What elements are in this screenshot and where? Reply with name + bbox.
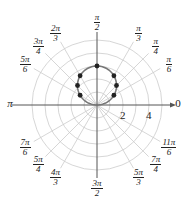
grid-spoke: [45, 53, 97, 105]
grid-spoke: [61, 105, 98, 168]
angle-label-numerator: 5π: [20, 55, 31, 65]
angle-label: 5π4: [30, 155, 46, 174]
angle-label-denominator: 4: [153, 47, 158, 56]
grid-spoke: [34, 69, 97, 106]
angle-label: 0: [173, 99, 183, 108]
angle-label: 11π6: [161, 138, 177, 157]
grid-spoke: [97, 69, 160, 106]
data-point: [78, 93, 83, 98]
data-point: [95, 64, 100, 69]
angle-label-denominator: 3: [53, 34, 58, 43]
radial-tick-label: 2: [120, 109, 126, 121]
grid-spoke: [45, 105, 97, 157]
angle-label: π: [5, 99, 15, 108]
angle-label: 7π4: [148, 155, 164, 174]
data-point: [75, 83, 80, 88]
grid-spoke: [97, 53, 149, 105]
angle-label-denominator: 3: [53, 178, 58, 187]
angle-label-denominator: 6: [23, 148, 28, 157]
data-point: [111, 93, 116, 98]
angle-label-denominator: 6: [23, 65, 28, 74]
angle-label: 5π6: [17, 55, 33, 74]
angle-label-denominator: 3: [136, 34, 141, 43]
angle-label-denominator: 4: [36, 47, 41, 56]
angle-label: π4: [148, 37, 164, 56]
angle-label: π3: [131, 24, 147, 43]
angle-label-denominator: 4: [36, 165, 41, 174]
angle-label-denominator: 6: [167, 65, 172, 74]
angle-label: π6: [161, 55, 177, 74]
angle-label-numerator: 7π: [20, 138, 31, 148]
angle-label-denominator: 2: [95, 189, 100, 198]
data-point: [78, 73, 83, 78]
angle-label-numerator: π: [166, 55, 173, 65]
data-point: [112, 73, 117, 78]
angle-label: 4π3: [48, 168, 64, 187]
angle-label-denominator: 3: [136, 178, 141, 187]
angle-label-numerator: 11π: [161, 138, 176, 148]
angle-label: 3π2: [89, 179, 105, 198]
data-point: [114, 83, 119, 88]
angle-label-denominator: 4: [153, 165, 158, 174]
angle-label-denominator: 6: [167, 148, 172, 157]
angle-label: π2: [89, 13, 105, 32]
grid-spoke: [34, 105, 97, 142]
angle-label: 7π6: [17, 138, 33, 157]
radial-tick-label: 4: [146, 109, 152, 121]
polar-chart: 24 0π6π4π3π22π33π45π6π7π65π44π33π25π37π4…: [0, 0, 190, 213]
grid-spoke: [97, 105, 134, 168]
angle-label: 5π3: [131, 168, 147, 187]
angle-label-denominator: 2: [95, 23, 100, 32]
angle-label: 3π4: [30, 37, 46, 56]
angle-label: 2π3: [48, 24, 64, 43]
